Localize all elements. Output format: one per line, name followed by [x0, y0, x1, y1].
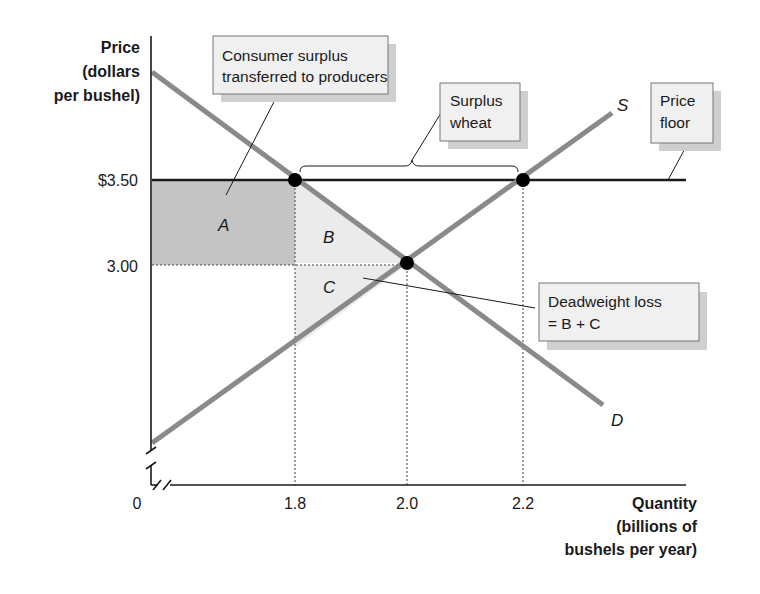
x-axis-label: Quantity (billions of bushels per year): [565, 495, 698, 558]
point-equilibrium: [400, 256, 414, 270]
svg-text:Deadweight loss: Deadweight loss: [548, 293, 662, 310]
point-qd-floor: [288, 173, 302, 187]
x-tick-2-0: 2.0: [396, 495, 418, 512]
svg-text:Consumer surplus: Consumer surplus: [222, 47, 348, 64]
label-c: C: [323, 278, 336, 297]
svg-text:Price: Price: [101, 39, 140, 56]
label-d: D: [611, 411, 623, 430]
svg-text:= B + C: = B + C: [548, 315, 601, 332]
x-tick-2-2: 2.2: [512, 495, 534, 512]
annotation-cs-transfer: Consumer surplus transferred to producer…: [213, 36, 396, 102]
label-a: A: [217, 216, 229, 235]
svg-text:(billions of: (billions of: [616, 518, 698, 535]
svg-text:wheat: wheat: [449, 114, 492, 131]
point-qs-floor: [516, 173, 530, 187]
svg-text:Surplus: Surplus: [450, 92, 503, 109]
label-s: S: [617, 96, 629, 115]
x-tick-1-8: 1.8: [284, 495, 306, 512]
surplus-brace: [300, 160, 518, 172]
svg-text:transferred to producers: transferred to producers: [222, 68, 388, 85]
annotation-price-floor: Price floor: [651, 83, 721, 151]
svg-text:floor: floor: [660, 114, 690, 131]
price-floor-chart: Consumer surplus transferred to producer…: [0, 0, 760, 594]
annotation-surplus-wheat: Surplus wheat: [440, 83, 528, 149]
y-axis-label: Price (dollars per bushel): [54, 39, 140, 104]
origin-label: 0: [133, 495, 142, 512]
annotation-deadweight: Deadweight loss = B + C: [539, 283, 707, 350]
y-tick-3-00: 3.00: [107, 258, 138, 275]
y-tick-3-50: $3.50: [98, 172, 138, 189]
svg-text:(dollars: (dollars: [82, 63, 140, 80]
svg-text:per bushel): per bushel): [54, 87, 140, 104]
svg-text:bushels per year): bushels per year): [565, 541, 698, 558]
area-c: [295, 265, 407, 347]
supply-curve: [152, 113, 612, 443]
svg-text:Price: Price: [660, 92, 695, 109]
svg-text:Quantity: Quantity: [632, 495, 697, 512]
label-b: B: [323, 228, 334, 247]
